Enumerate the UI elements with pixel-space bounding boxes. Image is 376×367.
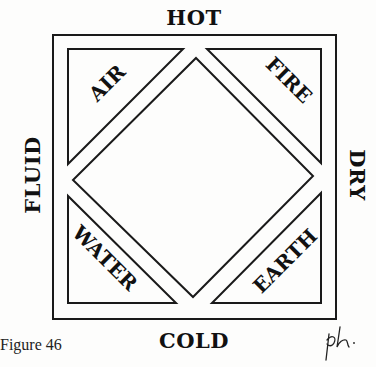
quality-bottom-label: COLD <box>159 328 229 353</box>
element-earth-label: EARTH <box>248 224 322 298</box>
element-air-label: AIR <box>83 60 130 107</box>
air-triangle <box>68 49 183 164</box>
quality-top-label: HOT <box>166 5 221 30</box>
figure-caption: Figure 46 <box>0 336 62 354</box>
elements-qualities-diagram: HOT COLD FLUID DRY AIR FIRE WATER EARTH … <box>0 0 376 367</box>
signature-mark <box>326 327 355 360</box>
quality-left-label: FLUID <box>20 136 45 213</box>
quality-right-label: DRY <box>345 149 370 201</box>
element-fire-label: FIRE <box>261 52 317 108</box>
